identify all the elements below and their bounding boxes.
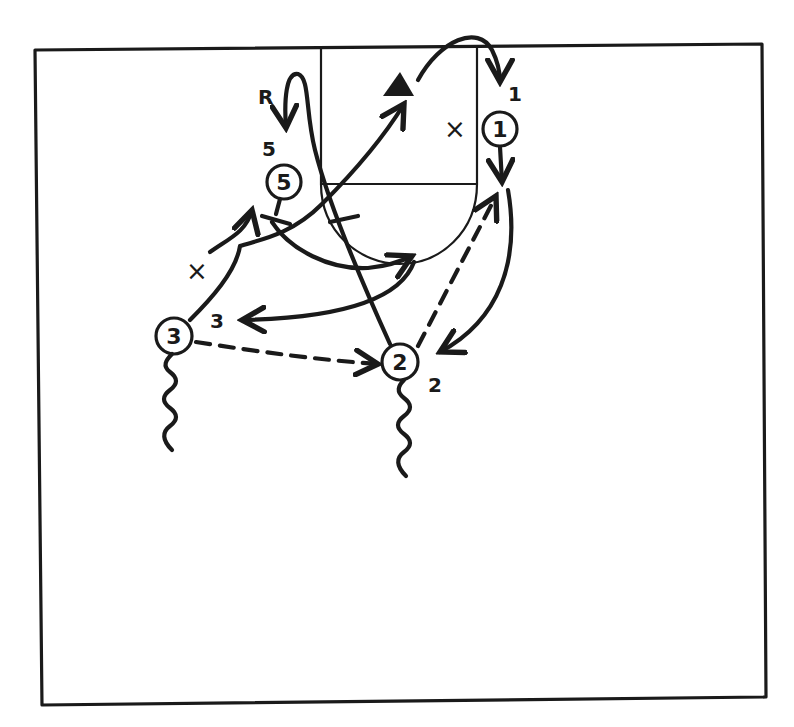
position-label-2: 2 [428,373,442,397]
rebound-label-r: R [258,85,273,109]
dribble-3 [164,354,176,450]
cut-3-to-basket [190,104,404,320]
svg-text:1: 1 [492,117,507,142]
basket-triangle-icon [383,72,414,96]
screen-5 [276,199,280,214]
screen-bar-5 [262,216,290,224]
position-label-5: 5 [262,137,276,161]
play-diagram: × 1 1 5 5 R 3 3 2 2 × [0,0,794,727]
svg-text:5: 5 [276,170,291,195]
arc-basket-to-1 [418,37,500,82]
position-label-3: 3 [210,309,224,333]
screen-x-mark-wing: × [186,256,208,286]
cut-1-to-2 [440,190,511,352]
player-3: 3 [156,318,192,354]
cut-2-to-rebound [285,74,390,344]
svg-text:3: 3 [166,324,181,349]
dribble-2 [398,380,410,476]
cut-1-down [500,147,502,182]
svg-text:2: 2 [392,350,407,375]
screen-x-mark-lane: × [444,114,466,144]
player-1: 1 [483,112,517,146]
pass-3-to-2 [196,342,378,364]
screen-bar-lane [330,216,358,222]
cut-to-3-position [242,262,414,320]
pass-2-to-1 [418,196,496,346]
player-5: 5 [267,165,301,199]
player-2: 2 [382,344,418,380]
position-label-1: 1 [508,82,522,106]
